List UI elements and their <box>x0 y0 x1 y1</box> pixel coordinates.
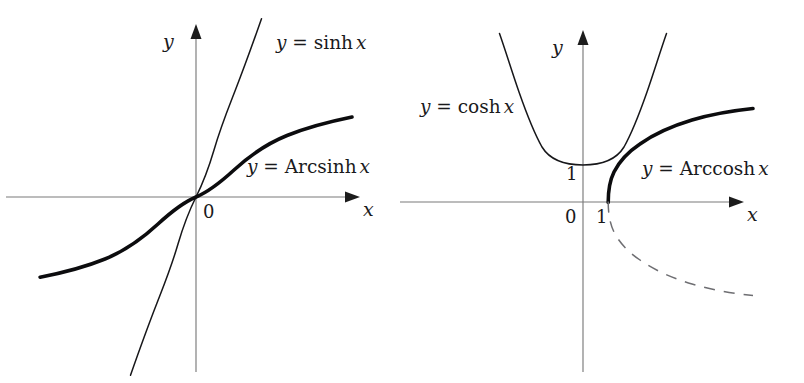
left-label-arcsinh: y = Arcsinhx <box>247 158 370 177</box>
left-origin-label: 0 <box>203 203 214 221</box>
left-y-axis-arrowhead <box>191 24 202 39</box>
right-curve-arccosh <box>608 109 753 203</box>
left-panel-sinh-arcsinh: y x 0 y = sinhx y = Arcsinhx <box>0 0 402 383</box>
right-label-arccosh-arg: x <box>758 158 768 179</box>
right-x-axis-label: x <box>747 205 758 224</box>
right-label-cosh-eq: = <box>436 96 452 117</box>
left-label-sinh-fn: sinh <box>314 32 353 53</box>
left-x-axis-arrowhead <box>345 192 360 203</box>
hyperbolic-functions-figure: y x 0 y = sinhx y = Arcsinhx <box>0 0 804 383</box>
right-y-axis-label: y <box>552 38 563 57</box>
right-label-cosh: y = coshx <box>420 98 514 117</box>
right-panel-plot <box>402 0 804 383</box>
right-label-arccosh-lhs: y <box>642 158 652 179</box>
left-label-arcsinh-eq: = <box>263 156 279 177</box>
right-y-tick-one-label: 1 <box>566 165 577 183</box>
right-x-tick-one-label: 1 <box>596 208 607 226</box>
left-label-arcsinh-lhs: y <box>247 156 257 177</box>
right-origin-label: 0 <box>565 208 576 226</box>
left-label-arcsinh-fn: Arcsinh <box>285 156 357 177</box>
right-label-cosh-fn: cosh <box>458 96 501 117</box>
right-panel-cosh-arccosh: y x 1 0 1 y = coshx y = Arccoshx <box>402 0 804 383</box>
right-label-cosh-arg: x <box>504 96 514 117</box>
left-label-sinh-eq: = <box>292 32 308 53</box>
right-y-axis-arrowhead <box>578 30 589 45</box>
left-label-arcsinh-arg: x <box>360 156 370 177</box>
right-label-cosh-lhs: y <box>420 96 430 117</box>
left-x-axis-label: x <box>363 200 374 219</box>
right-label-arccosh: y = Arccoshx <box>642 160 769 179</box>
left-label-sinh-arg: x <box>356 32 366 53</box>
right-label-arccosh-eq: = <box>658 158 674 179</box>
left-y-axis-label: y <box>163 32 174 51</box>
left-label-sinh-lhs: y <box>276 32 286 53</box>
right-curve-arccosh-negative-branch <box>608 202 753 296</box>
left-panel-plot <box>0 0 402 383</box>
right-x-axis-arrowhead <box>729 197 744 208</box>
right-label-arccosh-fn: Arccosh <box>680 158 755 179</box>
left-label-sinh: y = sinhx <box>276 34 366 53</box>
